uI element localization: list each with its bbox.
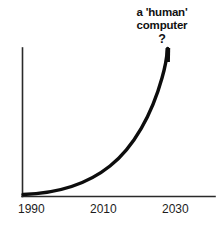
- annotation-question-mark: ?: [110, 32, 214, 46]
- annotation-line-1: a 'human': [110, 6, 214, 19]
- annotation-line-2: computer: [110, 19, 214, 32]
- x-tick-label-2010: 2010: [90, 203, 117, 216]
- exponential-curve: [23, 49, 168, 195]
- exponential-growth-figure: a 'human' computer ? 1990 2010 2030: [0, 0, 221, 225]
- x-tick-label-2030: 2030: [162, 203, 189, 216]
- x-tick-label-1990: 1990: [18, 203, 45, 216]
- curve-annotation: a 'human' computer ?: [110, 6, 214, 46]
